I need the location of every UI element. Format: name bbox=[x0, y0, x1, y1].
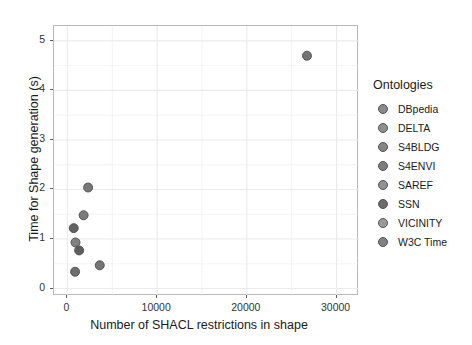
legend-item-ssn[interactable]: SSN bbox=[373, 194, 472, 213]
x-axis-title: Number of SHACL restrictions in shape bbox=[38, 318, 360, 332]
legend-key bbox=[373, 118, 392, 137]
legend-title: Ontologies bbox=[373, 78, 472, 92]
data-point-vicinity[interactable] bbox=[95, 261, 104, 270]
y-tick-mark bbox=[50, 238, 53, 239]
legend-marker-icon bbox=[378, 199, 388, 209]
legend-marker-icon bbox=[378, 237, 388, 247]
plot-canvas bbox=[54, 26, 359, 296]
legend-key bbox=[373, 137, 392, 156]
legend-marker-icon bbox=[378, 161, 388, 171]
data-point-s4envi[interactable] bbox=[69, 224, 78, 233]
legend-marker-icon bbox=[378, 218, 388, 228]
y-tick-label: 2 bbox=[5, 181, 45, 193]
x-tick-label: 20000 bbox=[216, 301, 276, 313]
legend-item-s4bldg[interactable]: S4BLDG bbox=[373, 137, 472, 156]
x-tick-label: 30000 bbox=[306, 301, 366, 313]
legend-item-dbpedia[interactable]: DBpedia bbox=[373, 99, 472, 118]
legend-marker-icon bbox=[378, 123, 388, 133]
y-tick-mark bbox=[50, 139, 53, 140]
legend-label: S4ENVI bbox=[398, 160, 435, 172]
legend-label: S4BLDG bbox=[398, 141, 439, 153]
y-tick-label: 1 bbox=[5, 231, 45, 243]
legend-key bbox=[373, 99, 392, 118]
legend-marker-icon bbox=[378, 180, 388, 190]
legend-item-delta[interactable]: DELTA bbox=[373, 118, 472, 137]
legend-item-vicinity[interactable]: VICINITY bbox=[373, 213, 472, 232]
y-tick-mark bbox=[50, 288, 53, 289]
x-tick-label: 10000 bbox=[126, 301, 186, 313]
legend-item-s4envi[interactable]: S4ENVI bbox=[373, 156, 472, 175]
data-point-ssn[interactable] bbox=[75, 246, 84, 255]
data-points bbox=[69, 51, 311, 276]
legend-label: SSN bbox=[398, 198, 420, 210]
scatter-plot-figure: Time for Shape generation (s) 012345 010… bbox=[0, 0, 472, 345]
legend: Ontologies DBpediaDELTAS4BLDGS4ENVISAREF… bbox=[373, 78, 472, 251]
legend-marker-icon bbox=[378, 104, 388, 114]
legend-label: DELTA bbox=[398, 122, 430, 134]
legend-key bbox=[373, 175, 392, 194]
legend-key bbox=[373, 194, 392, 213]
legend-label: SAREF bbox=[398, 179, 433, 191]
data-point-w3c-time[interactable] bbox=[71, 267, 80, 276]
gridlines bbox=[54, 26, 359, 296]
legend-key bbox=[373, 213, 392, 232]
x-tick-mark bbox=[246, 295, 247, 298]
y-tick-label: 4 bbox=[5, 82, 45, 94]
x-tick-mark bbox=[156, 295, 157, 298]
legend-key bbox=[373, 232, 392, 251]
data-point-delta[interactable] bbox=[84, 183, 93, 192]
legend-item-saref[interactable]: SAREF bbox=[373, 175, 472, 194]
x-tick-mark bbox=[336, 295, 337, 298]
legend-marker-icon bbox=[378, 142, 388, 152]
legend-label: DBpedia bbox=[398, 103, 438, 115]
x-tick-mark bbox=[66, 295, 67, 298]
y-tick-mark bbox=[50, 89, 53, 90]
y-tick-label: 5 bbox=[5, 33, 45, 45]
y-tick-mark bbox=[50, 40, 53, 41]
x-tick-label: 0 bbox=[36, 301, 96, 313]
y-tick-label: 3 bbox=[5, 132, 45, 144]
data-point-s4bldg[interactable] bbox=[79, 211, 88, 220]
y-tick-mark bbox=[50, 188, 53, 189]
legend-label: W3C Time bbox=[398, 236, 447, 248]
legend-items: DBpediaDELTAS4BLDGS4ENVISAREFSSNVICINITY… bbox=[373, 99, 472, 251]
legend-item-w3c-time[interactable]: W3C Time bbox=[373, 232, 472, 251]
y-tick-label: 0 bbox=[5, 281, 45, 293]
legend-key bbox=[373, 156, 392, 175]
plot-panel bbox=[53, 25, 358, 295]
data-point-dbpedia[interactable] bbox=[302, 51, 311, 60]
legend-label: VICINITY bbox=[398, 217, 442, 229]
